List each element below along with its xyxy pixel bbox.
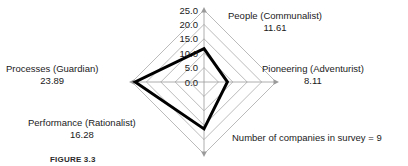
axis-label-processes: Processes (Guardian) 23.89 [6, 63, 98, 86]
tick-label-15: 15.0 [180, 33, 199, 44]
axis-label-people-value: 11.61 [228, 22, 322, 34]
axis-label-processes-name: Processes (Guardian) [6, 63, 98, 75]
axis-label-pioneering: Pioneering (Adventurist) 8.11 [262, 63, 364, 86]
arrowhead-top [201, 7, 207, 13]
figure-caption: FIGURE 3.3 [50, 155, 96, 164]
axis-label-performance: Performance (Rationalist) 16.28 [28, 117, 136, 140]
tick-label-5: 5.0 [185, 62, 198, 73]
axis-label-performance-value: 16.28 [28, 129, 136, 141]
survey-size-note: Number of companies in survey = 9 [232, 132, 382, 144]
radar-chart-figure: 25.0 20.0 15.0 10.0 5.0 0.0 People (Comm… [0, 0, 408, 166]
axis-label-processes-value: 23.89 [6, 75, 98, 87]
axis-label-pioneering-name: Pioneering (Adventurist) [262, 63, 364, 75]
axis-label-performance-name: Performance (Rationalist) [28, 117, 136, 129]
tick-label-0: 0.0 [185, 77, 198, 88]
axis-label-people: People (Communalist) 11.61 [228, 10, 322, 33]
tick-label-20: 20.0 [180, 19, 199, 30]
axis-label-pioneering-value: 8.11 [262, 75, 364, 87]
axis-label-people-name: People (Communalist) [228, 10, 322, 22]
tick-label-25: 25.0 [180, 5, 199, 16]
arrowhead-bottom [201, 152, 207, 158]
tick-label-10: 10.0 [180, 48, 199, 59]
